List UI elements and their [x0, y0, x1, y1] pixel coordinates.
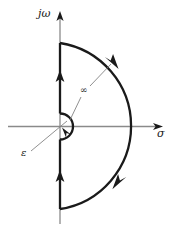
- contour-diagram: [0, 0, 174, 229]
- epsilon-leader-line: [31, 121, 67, 151]
- infinity-leader-line-upper: [90, 64, 111, 86]
- real-axis-label: σ: [157, 128, 165, 139]
- axes-group: [8, 11, 163, 224]
- infinity-leader-line-lower: [70, 97, 81, 120]
- epsilon-radius-label: ε: [21, 148, 26, 158]
- nyquist-contour-figure: jω σ ε ∞: [0, 0, 174, 229]
- annotation-leader-lines: [31, 64, 111, 151]
- infinity-radius-label: ∞: [80, 86, 88, 95]
- imaginary-axis-label: jω: [38, 8, 50, 19]
